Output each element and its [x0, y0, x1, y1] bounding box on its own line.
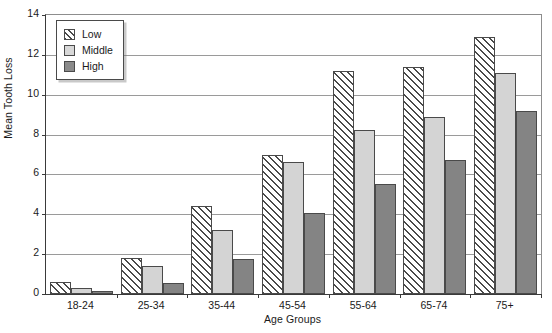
y-axis-tick-mark [42, 254, 46, 255]
y-axis-tick-mark [42, 95, 46, 96]
x-axis-tick-mark [187, 294, 188, 298]
y-axis-tick-label: 4 [13, 206, 39, 218]
x-axis-tick-label: 75+ [470, 299, 540, 311]
bar-group [333, 15, 396, 294]
y-axis-tick-mark [42, 55, 46, 56]
y-axis-tick-mark [42, 15, 46, 16]
x-axis-tick-label: 35-44 [187, 299, 257, 311]
x-axis-tick-mark [329, 294, 330, 298]
bar-group [121, 15, 184, 294]
bar-low [50, 282, 71, 294]
x-axis-title: Age Groups [45, 313, 540, 325]
bar-middle [71, 288, 92, 294]
bar-low [333, 71, 354, 294]
bar-high [163, 283, 184, 294]
y-axis-tick-mark [42, 174, 46, 175]
chart-legend: Low Middle High [56, 20, 124, 80]
x-axis-tick-mark [470, 294, 471, 298]
legend-swatch-high-icon [64, 61, 75, 72]
bar-middle [283, 162, 304, 294]
bar-chart: Mean Tooth Loss Age Groups 02468101214 1… [0, 0, 552, 333]
bar-high [233, 259, 254, 294]
x-axis-tick-label: 45-54 [258, 299, 328, 311]
legend-label-middle: Middle [82, 44, 113, 56]
bar-high [304, 213, 325, 294]
bar-middle [495, 73, 516, 294]
y-axis-tick-mark [42, 294, 46, 295]
x-axis-tick-label: 18-24 [45, 299, 115, 311]
x-axis-tick-mark [258, 294, 259, 298]
y-axis-tick-label: 10 [13, 87, 39, 99]
x-axis-tick-mark [117, 294, 118, 298]
x-axis-tick-mark [541, 294, 542, 298]
bar-low [262, 155, 283, 295]
legend-swatch-middle-icon [64, 45, 75, 56]
legend-swatch-low-icon [64, 29, 75, 40]
bar-middle [354, 130, 375, 294]
y-axis-tick-mark [42, 135, 46, 136]
bar-high [445, 160, 466, 294]
bar-low [121, 258, 142, 294]
x-axis-tick-label: 65-74 [399, 299, 469, 311]
bar-group [262, 15, 325, 294]
bar-low [474, 37, 495, 294]
legend-item-low: Low [64, 26, 113, 42]
bar-middle [424, 117, 445, 294]
x-axis-tick-mark [400, 294, 401, 298]
x-axis-tick-label: 25-34 [116, 299, 186, 311]
bar-low [403, 67, 424, 294]
bar-high [516, 111, 537, 294]
legend-item-middle: Middle [64, 42, 113, 58]
legend-label-high: High [82, 60, 104, 72]
y-axis-tick-label: 8 [13, 127, 39, 139]
bar-low [191, 206, 212, 294]
bar-high [375, 184, 396, 294]
bar-group [474, 15, 537, 294]
y-axis-tick-label: 14 [13, 7, 39, 19]
y-axis-tick-label: 0 [13, 286, 39, 298]
bar-middle [142, 266, 163, 294]
y-axis-tick-mark [42, 214, 46, 215]
bar-group [191, 15, 254, 294]
bar-group [403, 15, 466, 294]
bar-middle [212, 230, 233, 294]
y-axis-tick-label: 12 [13, 47, 39, 59]
legend-item-high: High [64, 58, 113, 74]
x-axis-tick-label: 55-64 [328, 299, 398, 311]
y-axis-tick-label: 6 [13, 166, 39, 178]
legend-label-low: Low [82, 28, 101, 40]
y-axis-tick-label: 2 [13, 246, 39, 258]
bar-high [92, 291, 113, 294]
